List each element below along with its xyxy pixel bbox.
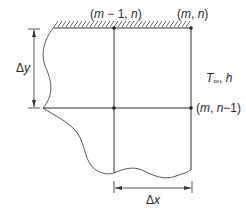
insulated-wall — [53, 21, 191, 28]
node-points — [112, 26, 193, 110]
arrow-left-icon — [115, 186, 122, 190]
dy-label: Δy — [16, 61, 31, 75]
wavy-break-boundary — [43, 28, 191, 178]
label-node-m-n: (m, n) — [177, 7, 208, 21]
node-m-minus-1-n-minus-1 — [112, 106, 116, 110]
finite-difference-diagram: Δy Δx (m − 1, n) (m, n) (m, n−1) T∞, h — [0, 0, 246, 211]
dimension-dx — [114, 181, 192, 193]
convection-label: T∞, h — [206, 71, 233, 86]
label-node-m-n-minus-1: (m, n−1) — [196, 101, 241, 115]
node-m-n-minus-1 — [189, 106, 193, 110]
arrow-up-icon — [32, 30, 36, 37]
label-node-m-minus-1-n: (m − 1, n) — [90, 7, 142, 21]
dx-label: Δx — [146, 193, 161, 207]
node-m-minus-1-n — [112, 26, 116, 30]
arrow-down-icon — [32, 100, 36, 107]
node-m-n — [189, 26, 193, 30]
wall-hatching — [54, 21, 190, 27]
arrow-right-icon — [184, 186, 191, 190]
